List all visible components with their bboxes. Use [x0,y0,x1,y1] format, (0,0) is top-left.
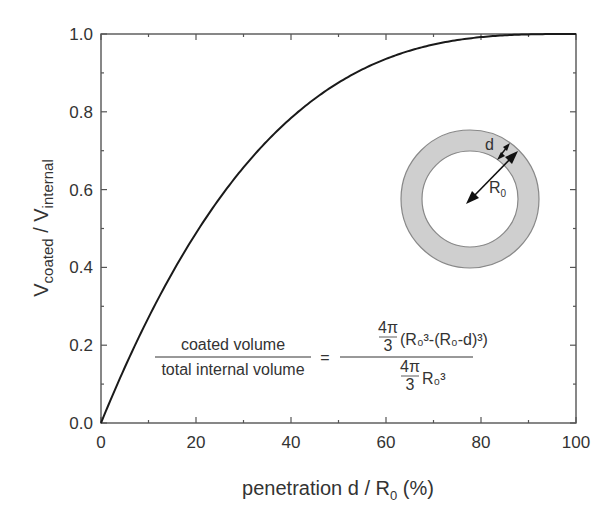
label-d: d [485,136,494,153]
x-axis-title: penetration d / R0 (%) [242,477,434,503]
x-tick-label: 60 [377,433,396,452]
eq-rhs-den-coef-bot: 3 [406,376,415,393]
eq-rhs-num-expr: (R₀³-(R₀-d)³) [400,331,488,348]
y-tick-label: 0.8 [69,103,93,122]
y-tick-label: 1.0 [69,25,93,44]
y-tick-label: 0.4 [69,258,93,277]
chart: 0204060801000.00.20.40.60.81.0 penetrati… [0,0,616,526]
eq-rhs-num-coef-top: 4π [378,319,398,336]
x-tick-label: 100 [562,433,590,452]
x-tick-label: 20 [187,433,206,452]
eq-lhs-denominator: total internal volume [161,361,304,378]
x-tick-label: 0 [96,433,105,452]
volume-equation: coated volume total internal volume = 4π… [155,319,488,393]
eq-rhs-den-coef-top: 4π [400,358,420,375]
x-tick-label: 40 [282,433,301,452]
y-tick-label: 0.6 [69,181,93,200]
eq-equals: = [320,349,329,366]
shell-diagram: d R0 [401,130,539,268]
y-axis-title: Vcoated / Vinternal [30,159,56,297]
y-tick-label: 0.2 [69,336,93,355]
eq-rhs-den-expr: R₀³ [422,370,446,387]
y-tick-label: 0.0 [69,414,93,433]
eq-rhs-num-coef-bot: 3 [384,337,393,354]
x-tick-label: 80 [472,433,491,452]
eq-lhs-numerator: coated volume [181,336,285,353]
